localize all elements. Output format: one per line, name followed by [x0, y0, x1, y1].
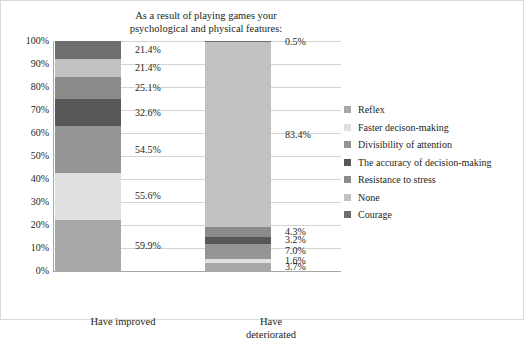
legend-item-label: The accuracy of decision-making — [358, 157, 492, 168]
legend-item-label: Faster decison-making — [358, 122, 449, 133]
y-tick-label-60%: 60% — [3, 128, 49, 138]
category-label-have-improved: Have improved — [73, 315, 173, 328]
legend-item[interactable]: None — [344, 189, 522, 207]
bar-segment[interactable] — [55, 59, 121, 77]
bar-segment[interactable] — [205, 227, 271, 237]
chart-title-line-2: psychological and physical features: — [61, 22, 351, 35]
value-label: 59.9% — [135, 241, 161, 251]
legend-item-label: None — [358, 192, 380, 203]
y-tick-label-100%: 100% — [3, 36, 49, 46]
plot-area: 0%10%20%30%40%50%60%70%80%90%100% 59.9%5… — [53, 41, 341, 271]
value-label: 0.5% — [285, 37, 306, 47]
legend-item[interactable]: Courage — [344, 206, 522, 224]
legend-swatch-icon — [344, 211, 351, 218]
legend-item[interactable]: Divisibility of attention — [344, 136, 522, 154]
legend-item[interactable]: Reflex — [344, 101, 522, 119]
bar-segment[interactable] — [55, 99, 121, 127]
legend-swatch-icon — [344, 106, 351, 113]
bar-segment[interactable] — [55, 41, 121, 59]
legend-swatch-icon — [344, 124, 351, 131]
bar-segment[interactable] — [205, 244, 271, 260]
bar-segment[interactable] — [205, 263, 271, 271]
y-tick-label-20%: 20% — [3, 220, 49, 230]
legend-item-label: Resistance to stress — [358, 174, 436, 185]
value-label: 25.1% — [135, 83, 161, 93]
bar-segment[interactable] — [55, 126, 121, 172]
chart-legend: ReflexFaster decison-makingDivisibility … — [344, 101, 522, 224]
bar-segment[interactable] — [55, 173, 121, 220]
value-label: 7.0% — [285, 246, 306, 256]
stacked-bar-have-improved[interactable] — [55, 41, 121, 271]
y-tick-label-90%: 90% — [3, 59, 49, 69]
bar-segment[interactable] — [205, 42, 271, 227]
category-label-line: Have — [221, 315, 321, 328]
value-label: 4.3% — [285, 227, 306, 237]
category-label-line: Have improved — [73, 315, 173, 328]
value-label: 32.6% — [135, 108, 161, 118]
y-tick-label-80%: 80% — [3, 82, 49, 92]
legend-item-label: Divisibility of attention — [358, 139, 452, 150]
value-label: 83.4% — [285, 130, 311, 140]
legend-item[interactable]: Resistance to stress — [344, 171, 522, 189]
y-tick-label-0%: 0% — [3, 266, 49, 276]
y-tick-label-40%: 40% — [3, 174, 49, 184]
stacked-bar-have-deteriorated[interactable] — [205, 41, 271, 271]
legend-item-label: Reflex — [358, 104, 385, 115]
bar-segment[interactable] — [205, 259, 271, 263]
value-label: 54.5% — [135, 145, 161, 155]
chart-title: As a result of playing games your psycho… — [61, 9, 351, 35]
legend-item-label: Courage — [358, 209, 392, 220]
category-label-have-deteriorated: Havedeteriorated — [221, 315, 321, 341]
legend-swatch-icon — [344, 141, 351, 148]
value-label: 1.6% — [285, 256, 306, 266]
legend-item[interactable]: The accuracy of decision-making — [344, 154, 522, 172]
bar-segment[interactable] — [55, 220, 121, 271]
y-tick-label-10%: 10% — [3, 243, 49, 253]
bar-segment[interactable] — [205, 41, 271, 42]
legend-swatch-icon — [344, 159, 351, 166]
legend-item[interactable]: Faster decison-making — [344, 119, 522, 137]
value-label: 55.6% — [135, 191, 161, 201]
category-label-line: deteriorated — [221, 328, 321, 341]
y-tick-label-50%: 50% — [3, 151, 49, 161]
bar-segment[interactable] — [205, 237, 271, 244]
y-tick-label-70%: 70% — [3, 105, 49, 115]
y-tick-label-30%: 30% — [3, 197, 49, 207]
value-label: 21.4% — [135, 63, 161, 73]
legend-swatch-icon — [344, 194, 351, 201]
bar-segment[interactable] — [55, 77, 121, 98]
value-label: 21.4% — [135, 45, 161, 55]
legend-swatch-icon — [344, 176, 351, 183]
chart-title-line-1: As a result of playing games your — [61, 9, 351, 22]
